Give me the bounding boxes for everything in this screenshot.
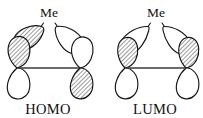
orbital-figure: Me HOMO Me LUMO — [0, 0, 203, 118]
homo-label: HOMO — [25, 101, 71, 117]
lumo-left-p-bottom-lobe — [115, 68, 138, 99]
orbital-diagram-svg: Me HOMO Me LUMO — [0, 0, 203, 118]
lumo-left-p-top-lobe — [118, 37, 138, 68]
homo-right-p-top-lobe — [72, 37, 93, 68]
lumo-substituent-label: Me — [147, 5, 165, 20]
lumo-right-p-top-lobe — [179, 37, 199, 68]
homo-diagram: Me HOMO — [7, 5, 93, 117]
lumo-right-p-bottom-lobe — [176, 68, 199, 99]
lumo-label: LUMO — [133, 101, 177, 117]
homo-left-p-bottom-lobe — [7, 68, 30, 99]
lumo-diagram: Me LUMO — [115, 5, 199, 117]
homo-left-p-top-lobe — [8, 36, 30, 68]
homo-right-p-bottom-lobe — [70, 68, 93, 99]
homo-substituent-label: Me — [40, 5, 58, 20]
